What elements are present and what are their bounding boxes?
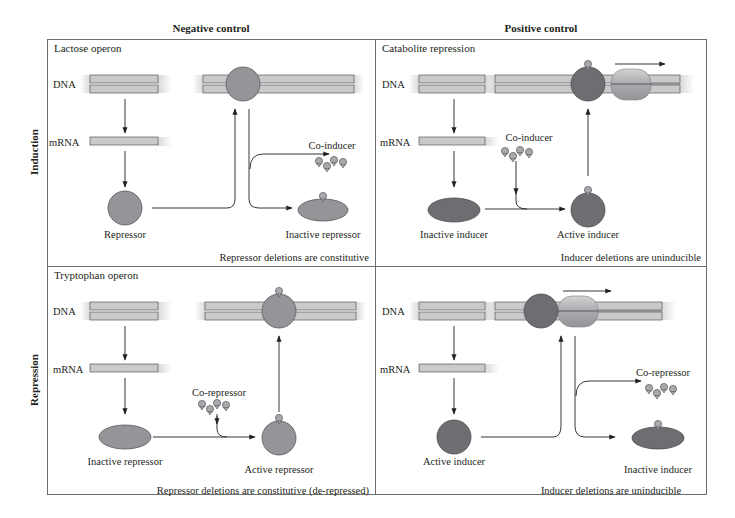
column-header-positive-control: Positive control bbox=[505, 22, 578, 34]
bound-active-repressor bbox=[262, 294, 296, 328]
dna-label: DNA bbox=[53, 79, 76, 90]
mrna-label: mRNA bbox=[49, 137, 80, 148]
co-repressor-molecules bbox=[645, 383, 676, 399]
active-repressor bbox=[262, 421, 296, 455]
mrna-label: mRNA bbox=[53, 364, 84, 375]
panel-title: Tryptophan operon bbox=[54, 269, 139, 281]
bound-active-inducer bbox=[524, 294, 558, 328]
protein-label: Inactive repressor bbox=[88, 456, 163, 467]
active-inducer bbox=[571, 193, 605, 227]
gene-dna bbox=[80, 75, 172, 93]
operator-dna bbox=[193, 75, 364, 93]
panel-positive-repression: DNA mRNA Active inducer Co-repressor Ina… bbox=[380, 291, 692, 496]
protein-label: Inactive inducer bbox=[420, 229, 488, 240]
panel-title: Lactose operon bbox=[54, 42, 122, 54]
panel-lactose-operon: Lactose operon DNA mRNA Repressor bbox=[49, 42, 369, 263]
co-repressor-molecules bbox=[198, 399, 229, 415]
panel-note: Repressor deletions are constitutive (de… bbox=[157, 485, 370, 497]
product-label: Active inducer bbox=[557, 229, 620, 240]
dna-label: DNA bbox=[382, 79, 405, 90]
mrna-label: mRNA bbox=[380, 364, 411, 375]
ligand-label: Co-inducer bbox=[308, 140, 356, 151]
co-inducer-molecules bbox=[315, 156, 346, 172]
ligand-label: Co-inducer bbox=[505, 132, 553, 143]
bound-repressor bbox=[226, 67, 260, 101]
row-header-induction: Induction bbox=[28, 129, 40, 175]
co-inducer-molecules bbox=[501, 146, 532, 162]
dna-label: DNA bbox=[53, 306, 76, 317]
panel-tryptophan-operon: Tryptophan operon DNA mRNA Inactive repr… bbox=[53, 269, 369, 497]
dna-label: DNA bbox=[382, 306, 405, 317]
protein-label: Repressor bbox=[104, 229, 146, 240]
gene-regulation-diagram: Negative control Positive control Induct… bbox=[0, 0, 735, 518]
panel-note: Inducer deletions are uninducible bbox=[561, 252, 702, 263]
product-label: Active repressor bbox=[244, 464, 314, 475]
row-header-repression: Repression bbox=[28, 354, 40, 406]
grid-frame bbox=[48, 40, 707, 495]
repressor-protein bbox=[108, 191, 142, 225]
bound-active-inducer bbox=[571, 67, 605, 101]
ligand-label: Co-repressor bbox=[636, 367, 691, 378]
mrna-strand bbox=[419, 137, 499, 146]
panel-catabolite-repression: Catabolite repression DNA mRNA Inactive … bbox=[380, 42, 701, 263]
panel-title: Catabolite repression bbox=[382, 42, 476, 54]
inactive-inducer bbox=[428, 198, 480, 222]
gene-dna bbox=[80, 302, 172, 320]
mrna-strand bbox=[90, 137, 172, 146]
panel-note: Inducer deletions are uninducible bbox=[541, 485, 682, 496]
mrna-label: mRNA bbox=[380, 137, 411, 148]
product-label: Inactive inducer bbox=[624, 464, 692, 475]
protein-label: Active inducer bbox=[423, 456, 486, 467]
inactive-repressor bbox=[99, 425, 151, 449]
column-header-negative-control: Negative control bbox=[172, 22, 249, 34]
mrna-strand bbox=[90, 364, 172, 373]
active-inducer bbox=[437, 420, 471, 454]
ligand-label: Co-repressor bbox=[192, 387, 247, 398]
mrna-strand bbox=[419, 364, 499, 373]
product-label: Inactive repressor bbox=[286, 229, 361, 240]
panel-note: Repressor deletions are constitutive bbox=[219, 252, 369, 263]
